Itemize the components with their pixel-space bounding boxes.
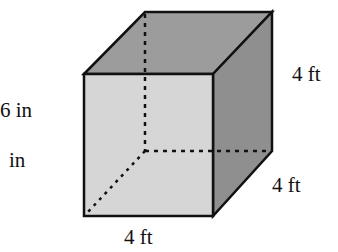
- label-left-top: 6 in: [0, 100, 32, 121]
- label-left-bottom: in: [9, 150, 25, 171]
- cube-figure: [0, 0, 338, 252]
- cube-front-face: [84, 74, 213, 216]
- label-right-depth: 4 ft: [272, 175, 301, 196]
- label-bottom-width: 4 ft: [124, 227, 153, 248]
- label-right-height: 4 ft: [292, 64, 321, 85]
- diagram-canvas: 6 in in 4 ft 4 ft 4 ft: [0, 0, 338, 252]
